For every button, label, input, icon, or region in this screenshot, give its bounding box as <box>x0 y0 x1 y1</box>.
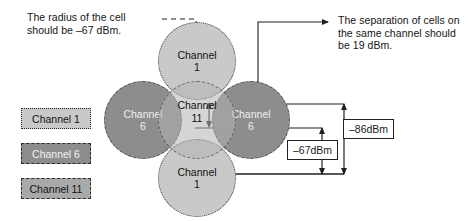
cell-label-name: Channel <box>123 108 162 120</box>
note-cell-separation: The separation of cells on the same chan… <box>338 14 475 52</box>
cell-label-number: 11 <box>192 112 203 124</box>
measurement-box-outer: –86dBm <box>343 119 394 139</box>
measurement-box-inner: –67dBm <box>287 140 338 160</box>
cell-channel-11-label: Channel 11 <box>158 99 236 125</box>
cell-label-number: 1 <box>194 178 200 190</box>
note-cell-radius: The radius of the cell should be –67 dBm… <box>27 11 167 36</box>
cell-label-name: Channel <box>177 166 216 178</box>
diagram-canvas: Channel 1 Channel 6 Channel 6 Channel 1 … <box>0 0 475 221</box>
cell-label-name: Channel <box>231 108 270 120</box>
cell-label-number: 6 <box>140 120 146 132</box>
cell-label-name: Channel <box>177 99 216 111</box>
cell-label-number: 6 <box>248 120 254 132</box>
legend-item-channel-11[interactable]: Channel 11 <box>21 178 91 199</box>
legend-item-channel-6[interactable]: Channel 6 <box>21 143 91 164</box>
cell-label-number: 1 <box>194 61 200 73</box>
cell-label-name: Channel <box>177 49 216 61</box>
legend-item-channel-1[interactable]: Channel 1 <box>21 108 91 129</box>
